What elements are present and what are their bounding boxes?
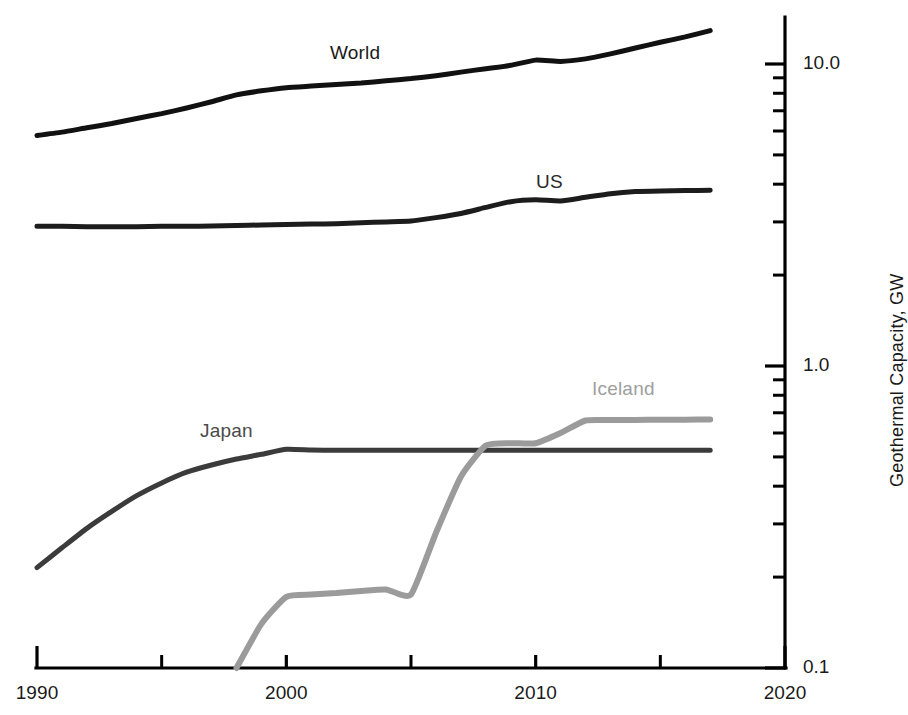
y-tick-label: 10.0 (803, 52, 840, 74)
series-label-japan: Japan (200, 420, 253, 442)
x-tick-label: 2020 (763, 682, 808, 704)
series-label-us: US (536, 171, 563, 193)
x-tick-label: 2010 (513, 682, 558, 704)
x-tick-label: 1990 (15, 682, 60, 704)
y-axis-title: Geothermal Capacity, GW (887, 274, 908, 487)
series-line-us (37, 190, 710, 227)
series-label-world: World (330, 42, 380, 64)
series-group (37, 31, 710, 668)
x-tick-label: 2000 (264, 682, 309, 704)
series-line-japan (37, 449, 710, 567)
y-tick-label: 1.0 (803, 354, 829, 376)
series-label-iceland: Iceland (592, 378, 655, 400)
y-tick-label: 0.1 (803, 656, 829, 678)
series-line-iceland (236, 420, 710, 668)
